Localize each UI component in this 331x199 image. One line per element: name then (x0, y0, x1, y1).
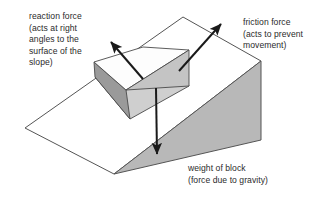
diagram-canvas: reaction force (acts at right angles to … (0, 0, 331, 199)
reaction-force-label: reaction force (acts at right angles to … (29, 11, 82, 69)
friction-force-label: friction force (acts to prevent movement… (243, 17, 303, 52)
weight-force-arrow (156, 88, 157, 154)
weight-force-label: weight of block (force due to gravity) (188, 163, 268, 186)
